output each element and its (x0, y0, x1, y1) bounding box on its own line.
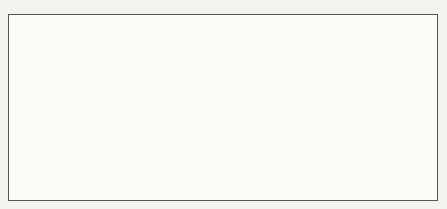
stem-plots (0, 0, 447, 209)
